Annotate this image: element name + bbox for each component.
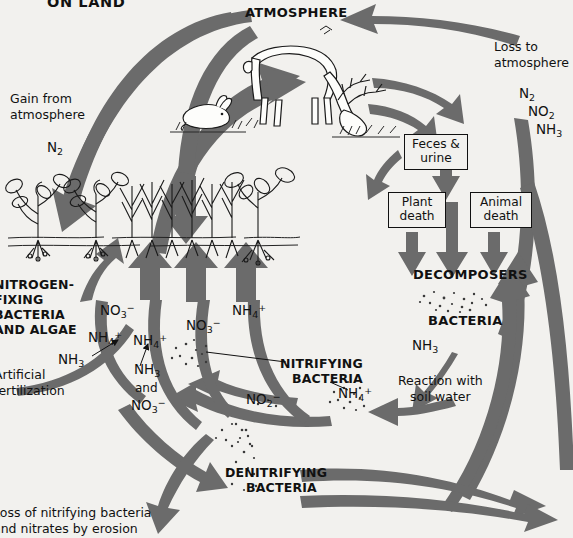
- loss-to-atmosphere-line2: atmosphere: [494, 56, 569, 70]
- denitrifying-bacteria-line1: DENITRIFYING: [225, 466, 327, 480]
- nitrifying-bacteria-line2: BACTERIA: [292, 372, 363, 386]
- gain-from-atmosphere-line2: atmosphere: [10, 108, 85, 122]
- chem-nh3-left: NH3: [58, 352, 84, 369]
- chem-no3-mid: NO3−: [131, 398, 166, 415]
- animal-death-box: Animal death: [470, 192, 532, 228]
- feces-urine-label-line2: urine: [420, 151, 451, 165]
- artificial-fertilization-line1: Artificial: [0, 368, 45, 382]
- chem-nh4-left: NH4+: [88, 330, 122, 347]
- loss-to-atmosphere-line1: Loss to: [494, 40, 538, 54]
- chem-nh3-loss: NH3: [536, 122, 562, 139]
- chem-no2-loss: NO2: [528, 104, 555, 121]
- nitrogen-fixing-line2: FIXING: [0, 293, 43, 307]
- artificial-fertilization-line2: fertilization: [0, 384, 65, 398]
- animal-death-label-line2: death: [483, 209, 518, 223]
- chem-nh4-right: NH4+: [232, 303, 266, 320]
- chem-no2-nitrify: NO2−: [246, 392, 281, 409]
- erosion-loss-line2: and nitrates by erosion: [0, 522, 138, 536]
- reaction-soil-water-line1: Reaction with: [398, 374, 483, 388]
- chem-n2-loss: N2: [519, 86, 535, 103]
- decomposers-heading: DECOMPOSERS: [413, 268, 528, 283]
- plant-death-label-line2: death: [399, 209, 434, 223]
- chem-nh4-nitrify: NH4+: [338, 386, 372, 403]
- feces-urine-label-line1: Feces &: [412, 137, 460, 151]
- feces-urine-box: Feces & urine: [404, 134, 468, 170]
- chem-and-mid: and: [135, 382, 158, 395]
- chem-n2-gain: N2: [47, 140, 63, 157]
- chem-nh3-mid: NH3: [134, 362, 160, 379]
- bacteria-heading: BACTERIA: [428, 314, 503, 329]
- nitrifying-bacteria-line1: NITRIFYING: [280, 357, 363, 371]
- atmosphere-heading: ATMOSPHERE: [245, 6, 347, 21]
- gain-from-atmosphere-line1: Gain from: [10, 92, 72, 106]
- plant-death-box: Plant death: [388, 192, 446, 228]
- animal-death-label-line1: Animal: [480, 195, 522, 209]
- plant-death-label-line1: Plant: [402, 195, 433, 209]
- chem-nh3-decomposer: NH3: [412, 338, 438, 355]
- chem-no3-left: NO3−: [100, 303, 135, 320]
- chem-no3-right: NO3−: [186, 318, 221, 335]
- nitrogen-fixing-line1: NITROGEN-: [0, 278, 74, 292]
- diagram-title: ON LAND: [47, 0, 125, 10]
- nitrogen-fixing-line3: BACTERIA: [0, 308, 65, 322]
- erosion-loss-line1: Loss of nitrifying bacteria: [0, 506, 152, 520]
- denitrifying-bacteria-line2: BACTERIA: [246, 481, 317, 495]
- nitrogen-fixing-line4: AND ALGAE: [0, 323, 77, 337]
- reaction-soil-water-line2: soil water: [410, 390, 471, 404]
- nitrogen-cycle-diagram: ON LAND ATMOSPHERE Gain from atmosphere …: [0, 0, 573, 538]
- chem-nh4-mid: NH4+: [133, 333, 167, 350]
